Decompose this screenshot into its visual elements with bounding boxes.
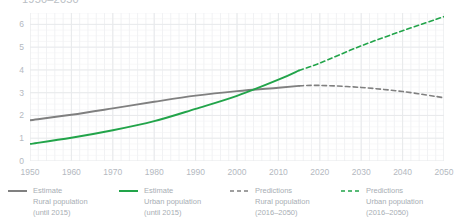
legend-label-estimate-rural: Estimate Rural population (until 2015) bbox=[33, 186, 88, 219]
legend-item-predictions-urban[interactable]: Predictions Urban population (2016–2050) bbox=[341, 186, 452, 219]
population-line-chart: 1950–2050 0123456 1950196019701980199020… bbox=[0, 0, 458, 221]
y-tick-5: 5 bbox=[19, 43, 24, 52]
plot-area: 0123456 19501960197019801990200020102020… bbox=[30, 13, 444, 161]
legend-label-estimate-urban: Estimate Urban population (until 2015) bbox=[144, 186, 201, 219]
legend-swatch-estimate-urban-icon bbox=[119, 187, 138, 196]
x-tick-2010: 2010 bbox=[269, 168, 288, 177]
x-tick-1990: 1990 bbox=[186, 168, 205, 177]
legend-item-predictions-rural[interactable]: Predictions Rural population (2016–2050) bbox=[230, 186, 341, 219]
y-tick-4: 4 bbox=[19, 66, 24, 75]
legend-item-estimate-urban[interactable]: Estimate Urban population (until 2015) bbox=[119, 186, 230, 219]
legend-swatch-predictions-urban-icon bbox=[341, 187, 360, 196]
legend-label-predictions-rural: Predictions Rural population (2016–2050) bbox=[255, 186, 310, 219]
y-tick-1: 1 bbox=[19, 134, 24, 143]
x-tick-1950: 1950 bbox=[21, 168, 40, 177]
x-tick-1970: 1970 bbox=[103, 168, 122, 177]
plot-svg bbox=[30, 13, 444, 161]
x-tick-1960: 1960 bbox=[62, 168, 81, 177]
x-tick-2030: 2030 bbox=[352, 168, 371, 177]
chart-legend: Estimate Rural population (until 2015)Es… bbox=[8, 186, 452, 219]
x-tick-2040: 2040 bbox=[393, 168, 412, 177]
legend-swatch-estimate-rural-icon bbox=[8, 187, 27, 196]
chart-title: 1950–2050 bbox=[22, 0, 79, 5]
x-tick-2050: 2050 bbox=[435, 168, 454, 177]
y-tick-0: 0 bbox=[19, 157, 24, 166]
x-tick-2020: 2020 bbox=[310, 168, 329, 177]
y-tick-3: 3 bbox=[19, 88, 24, 97]
y-tick-6: 6 bbox=[19, 20, 24, 29]
x-tick-1980: 1980 bbox=[145, 168, 164, 177]
x-tick-2000: 2000 bbox=[228, 168, 247, 177]
legend-swatch-predictions-rural-icon bbox=[230, 187, 249, 196]
y-tick-2: 2 bbox=[19, 111, 24, 120]
legend-item-estimate-rural[interactable]: Estimate Rural population (until 2015) bbox=[8, 186, 119, 219]
legend-label-predictions-urban: Predictions Urban population (2016–2050) bbox=[366, 186, 423, 219]
